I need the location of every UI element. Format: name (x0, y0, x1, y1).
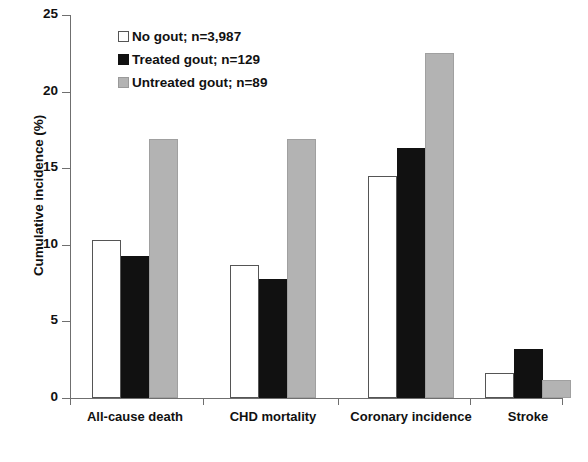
legend-item-no-gout: No gout; n=3,987 (118, 27, 267, 45)
legend-label-treated-gout: Treated gout; n=129 (132, 52, 260, 67)
y-tick-10 (62, 245, 70, 246)
bar-chart-figure: Cumulative incidence (%) 0510152025 All-… (0, 0, 588, 462)
black-square-icon (118, 54, 129, 65)
y-tick-0 (62, 398, 70, 399)
bar-1-0 (230, 265, 259, 398)
legend-label-untreated-gout: Untreated gout; n=89 (132, 75, 267, 90)
legend-label-no-gout: No gout; n=3,987 (132, 29, 241, 44)
gray-square-icon (118, 77, 129, 88)
y-tick-label-10: 10 (20, 236, 58, 251)
y-tick-label-15: 15 (20, 159, 58, 174)
chart-legend: No gout; n=3,987 Treated gout; n=129 Unt… (118, 27, 267, 96)
white-square-icon (118, 31, 129, 42)
category-label-3: Stroke (443, 409, 588, 424)
y-tick-label-5: 5 (20, 312, 58, 327)
bar-0-1 (121, 256, 150, 398)
y-tick-label-20: 20 (20, 83, 58, 98)
x-separator-0 (70, 398, 71, 405)
bar-2-2 (425, 53, 454, 398)
bar-1-1 (259, 279, 288, 398)
legend-item-untreated-gout: Untreated gout; n=89 (118, 73, 267, 91)
x-separator-4 (562, 398, 563, 405)
bar-0-0 (92, 240, 121, 398)
y-axis-title: Cumulative incidence (%) (31, 66, 46, 326)
y-tick-20 (62, 92, 70, 93)
y-tick-15 (62, 168, 70, 169)
y-tick-25 (62, 15, 70, 16)
x-separator-1 (203, 398, 204, 405)
scan-bottom-edge (0, 452, 588, 462)
bar-3-2 (542, 380, 571, 398)
y-tick-label-0: 0 (20, 389, 58, 404)
x-axis-line (70, 398, 562, 399)
bar-2-0 (368, 176, 397, 398)
x-separator-2 (338, 398, 339, 405)
legend-item-treated-gout: Treated gout; n=129 (118, 50, 267, 68)
bar-3-1 (514, 349, 543, 398)
bar-1-2 (287, 139, 316, 398)
y-tick-label-25: 25 (20, 6, 58, 21)
y-axis-line (70, 15, 71, 399)
y-tick-5 (62, 321, 70, 322)
bar-0-2 (149, 139, 178, 398)
x-separator-3 (470, 398, 471, 405)
bar-3-0 (485, 373, 514, 398)
bar-2-1 (397, 148, 426, 398)
